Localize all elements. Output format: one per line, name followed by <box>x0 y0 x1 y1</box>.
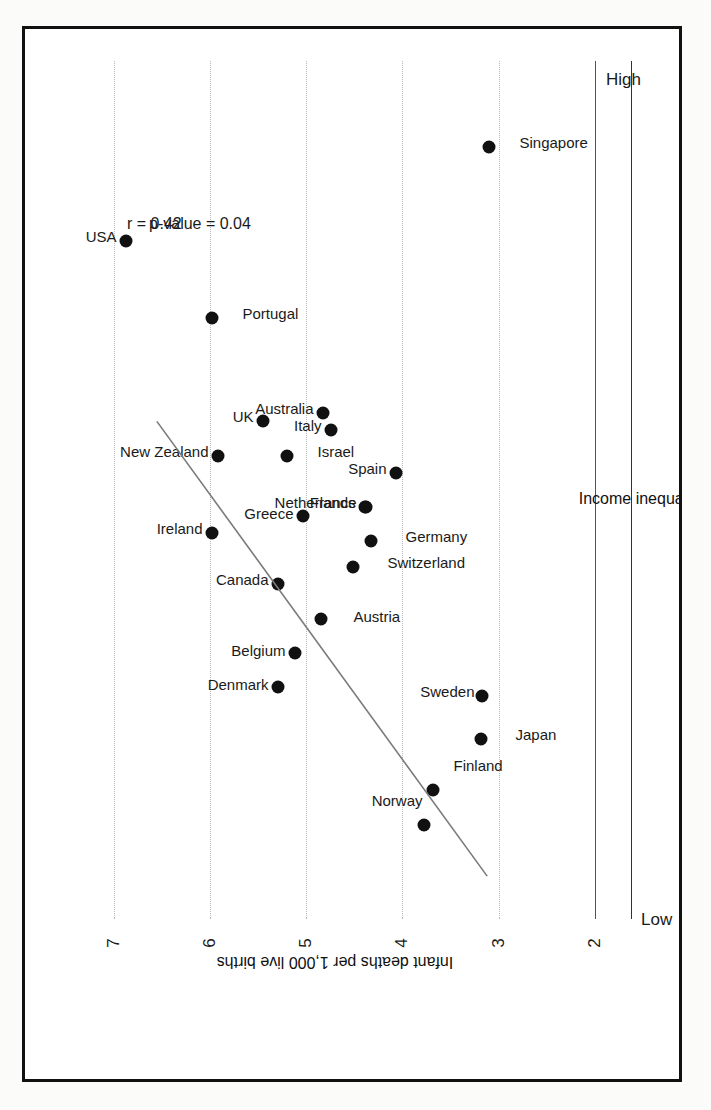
y-tick-label: 2 <box>585 938 605 947</box>
y-tick-label: 7 <box>104 938 124 947</box>
data-point-label: Germany <box>405 528 467 545</box>
data-point-label: Sweden <box>421 683 475 700</box>
data-point-label: UK <box>232 408 253 425</box>
figure-page: Infant mortality rates are higher in mor… <box>0 0 711 1110</box>
data-point-label: Austria <box>353 608 400 625</box>
data-point[interactable] <box>325 423 338 436</box>
data-point-label: Norway <box>371 792 422 809</box>
data-point-label: USA <box>86 228 117 245</box>
gridline <box>402 61 403 919</box>
y-tick-label: 4 <box>392 938 412 947</box>
data-point[interactable] <box>211 449 224 462</box>
data-point[interactable] <box>205 312 218 325</box>
data-point[interactable] <box>280 449 293 462</box>
data-point[interactable] <box>120 235 133 248</box>
data-point-label: Greece <box>245 505 294 522</box>
gridline <box>210 61 211 919</box>
data-point-label: Switzerland <box>388 554 466 571</box>
data-point[interactable] <box>475 732 488 745</box>
data-point-label: Japan <box>516 726 557 743</box>
data-point-label: Singapore <box>520 134 588 151</box>
y-tick-label: 5 <box>296 938 316 947</box>
data-point[interactable] <box>256 415 269 428</box>
data-point-label: Belgium <box>231 642 285 659</box>
data-point-label: Portugal <box>242 305 298 322</box>
data-point-label: Israel <box>317 443 354 460</box>
data-point-label: New Zealand <box>120 443 208 460</box>
plot-area <box>75 61 595 919</box>
data-point[interactable] <box>205 526 218 539</box>
data-point[interactable] <box>364 535 377 548</box>
data-point[interactable] <box>417 818 430 831</box>
scatter-chart: Infant mortality rates are higher in mor… <box>35 39 675 1069</box>
x-axis-title: Income inequality <box>579 490 680 508</box>
y-tick-label: 3 <box>489 938 509 947</box>
data-point[interactable] <box>427 784 440 797</box>
gridline <box>114 61 115 919</box>
pvalue-annotation: p-value = 0.04 <box>149 215 251 233</box>
gridline <box>306 61 307 919</box>
x-axis-high-label: High <box>606 70 641 90</box>
data-point-label: Ireland <box>156 520 202 537</box>
data-point-label: Denmark <box>208 676 269 693</box>
data-point[interactable] <box>272 578 285 591</box>
data-point[interactable] <box>272 681 285 694</box>
data-point-label: Finland <box>454 757 503 774</box>
y-tick-label: 6 <box>200 938 220 947</box>
data-point-label: Spain <box>348 460 386 477</box>
data-point[interactable] <box>288 647 301 660</box>
data-point[interactable] <box>359 501 372 514</box>
gridline <box>499 61 500 919</box>
data-point[interactable] <box>347 561 360 574</box>
data-point-label: France <box>310 494 357 511</box>
data-point[interactable] <box>389 466 402 479</box>
data-point[interactable] <box>483 140 496 153</box>
data-point[interactable] <box>297 509 310 522</box>
rotated-chart-wrapper: Infant mortality rates are higher in mor… <box>30 32 680 1076</box>
data-point[interactable] <box>476 689 489 702</box>
data-point[interactable] <box>314 612 327 625</box>
y-axis-title: Infant deaths per 1,000 live births <box>217 953 454 971</box>
data-point[interactable] <box>317 406 330 419</box>
x-axis-low-label: Low <box>641 910 672 930</box>
data-point-label: Canada <box>216 571 269 588</box>
data-point-label: Italy <box>294 417 322 434</box>
